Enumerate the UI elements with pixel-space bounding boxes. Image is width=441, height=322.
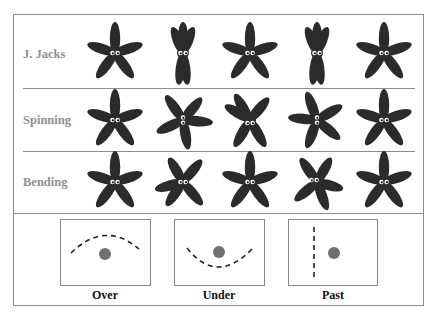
starfish-icon <box>215 147 285 217</box>
starfish-icon <box>148 147 218 217</box>
target-dot-icon <box>99 248 111 260</box>
starfish-icon <box>80 85 150 155</box>
motion-label-under: Under <box>174 288 264 302</box>
starfish-icon <box>80 18 150 88</box>
motion-box-under <box>174 219 265 286</box>
starfish-icon <box>349 147 419 217</box>
starfish-icon <box>282 18 352 88</box>
starfish-icon <box>282 85 352 155</box>
motion-label-over: Over <box>60 288 150 302</box>
starfish-icon <box>148 18 218 88</box>
starfish-icon <box>349 85 419 155</box>
starfish-icon <box>282 147 352 217</box>
starfish-icon <box>215 18 285 88</box>
past-path-diagram <box>289 220 377 285</box>
over-path-diagram <box>61 220 150 285</box>
target-dot-icon <box>328 247 340 259</box>
starfish-icon <box>215 85 285 155</box>
starfish-icon <box>80 147 150 217</box>
starfish-icon <box>349 18 419 88</box>
motion-box-past <box>288 219 378 286</box>
motion-box-over <box>60 219 151 286</box>
starfish-icon <box>148 85 218 155</box>
motion-label-past: Past <box>288 288 378 302</box>
target-dot-icon <box>213 246 225 258</box>
under-path-diagram <box>175 220 264 285</box>
